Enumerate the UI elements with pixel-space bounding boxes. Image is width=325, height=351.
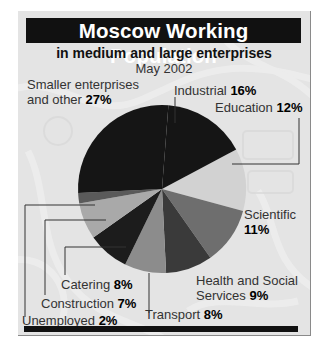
chart-frame: Moscow Working Population in medium and … — [18, 11, 311, 336]
label-scientific: Scientific 11% — [244, 207, 296, 237]
label-health-social-services: Health and Social Services 9% — [196, 273, 298, 303]
label-transport: Transport 8% — [145, 307, 223, 322]
label-education: Education 12% — [215, 100, 302, 115]
label-construction: Construction 7% — [41, 296, 136, 311]
label-smaller-enterprises: Smaller enterprises and other 27% — [27, 77, 139, 107]
label-industrial: Industrial 16% — [174, 83, 256, 98]
slice-smaller-enterprises — [78, 105, 168, 193]
label-catering: Catering 8% — [61, 277, 133, 292]
bottom-rule — [24, 326, 298, 332]
